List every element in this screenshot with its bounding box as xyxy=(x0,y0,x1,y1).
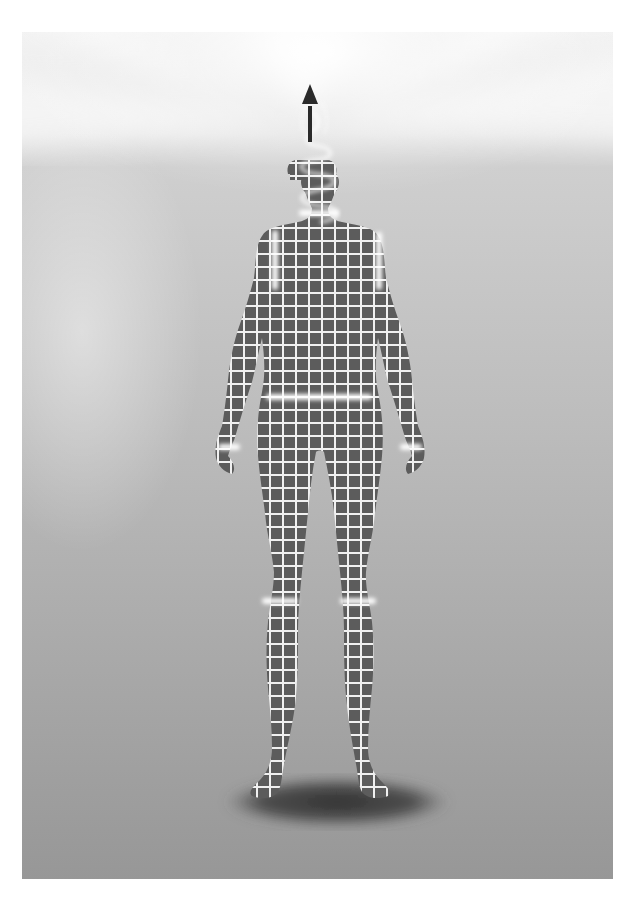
left-shoulder-band xyxy=(272,230,278,290)
human-figure-illustration xyxy=(22,32,613,879)
illustration-frame xyxy=(22,32,613,879)
left-wrist-band xyxy=(218,444,240,450)
neck-band xyxy=(299,210,339,216)
right-knee-band xyxy=(340,598,376,604)
right-wrist-band xyxy=(400,444,422,450)
right-shoulder-band xyxy=(376,232,382,290)
waist-band xyxy=(266,394,372,400)
left-knee-band xyxy=(262,598,298,604)
